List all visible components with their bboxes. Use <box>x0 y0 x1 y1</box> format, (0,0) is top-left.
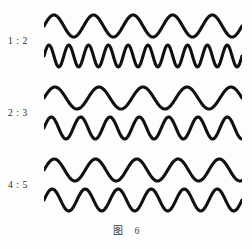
wave-stroke <box>44 45 242 67</box>
wave-stroke <box>44 87 242 109</box>
wave-stroke <box>44 159 242 181</box>
figure-container: 1 : 2 2 : 3 4 : 5 图6 <box>0 0 252 249</box>
wave-stroke <box>44 117 242 139</box>
sine-wave-3-upper <box>44 156 242 184</box>
ratio-label-3: 4 : 5 <box>8 180 42 190</box>
sine-wave-1-lower <box>44 42 242 70</box>
sine-wave-3-lower <box>44 186 242 214</box>
ratio-label-1: 1 : 2 <box>8 36 42 46</box>
caption-number: 6 <box>135 225 140 236</box>
wave-stroke <box>44 15 242 37</box>
sine-wave-2-upper <box>44 84 242 112</box>
sine-wave-2-lower <box>44 114 242 142</box>
wave-stroke <box>44 189 242 211</box>
caption-label: 图 <box>113 225 123 236</box>
sine-wave-1-upper <box>44 12 242 40</box>
ratio-label-2: 2 : 3 <box>8 108 42 118</box>
wave-group-1: 1 : 2 <box>0 12 252 70</box>
figure-caption: 图6 <box>0 222 252 237</box>
wave-group-3: 4 : 5 <box>0 156 252 214</box>
wave-group-2: 2 : 3 <box>0 84 252 142</box>
